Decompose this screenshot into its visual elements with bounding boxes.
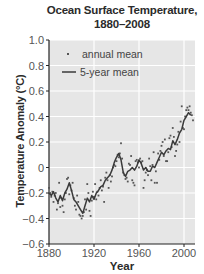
annual-mean-point <box>127 181 129 183</box>
annual-mean-point <box>144 179 146 181</box>
x-tick-label: 1920 <box>82 247 106 259</box>
y-tick-label: 0.4 <box>29 111 44 123</box>
annual-mean-point <box>189 105 191 107</box>
annual-mean-point <box>176 144 178 146</box>
annual-mean-point <box>180 121 182 123</box>
annual-mean-point <box>134 184 136 186</box>
annual-mean-point <box>94 183 96 185</box>
annual-mean-point <box>77 201 79 203</box>
annual-mean-point <box>126 177 128 179</box>
y-tick-label: 1.0 <box>29 34 44 46</box>
annual-mean-point <box>168 137 170 139</box>
annual-mean-point <box>84 198 86 200</box>
annual-mean-point <box>62 205 64 207</box>
annual-mean-point <box>80 215 82 217</box>
annual-mean-point <box>162 141 164 143</box>
annual-mean-point <box>89 210 91 212</box>
annual-mean-point <box>155 170 157 172</box>
annual-mean-point <box>91 200 93 202</box>
annual-mean-point <box>129 164 131 166</box>
y-tick-label: 0 <box>38 162 44 174</box>
annual-mean-point <box>139 158 141 160</box>
annual-mean-point <box>85 209 87 211</box>
annual-mean-point <box>167 151 169 153</box>
annual-mean-point <box>55 192 57 194</box>
legend-dot-icon <box>67 53 69 55</box>
annual-mean-point <box>186 107 188 109</box>
annual-mean-point <box>90 215 92 217</box>
annual-mean-point <box>48 187 50 189</box>
annual-mean-point <box>183 128 185 130</box>
y-tick-label: −0.4 <box>22 213 44 225</box>
annual-mean-point <box>107 179 109 181</box>
annual-mean-point <box>181 105 183 107</box>
annual-mean-point <box>145 172 147 174</box>
y-tick-label: 0.2 <box>29 136 44 148</box>
annual-mean-point <box>132 182 134 184</box>
x-tick-label: 2000 <box>172 247 196 259</box>
annual-mean-point <box>110 181 112 183</box>
annual-mean-point <box>185 109 187 111</box>
annual-mean-point <box>172 127 174 129</box>
annual-mean-point <box>81 218 83 220</box>
annual-mean-point <box>64 198 66 200</box>
annual-mean-point <box>105 172 107 174</box>
annual-mean-point <box>143 187 145 189</box>
annual-mean-point <box>179 141 181 143</box>
annual-mean-point <box>86 183 88 185</box>
annual-mean-point <box>58 182 60 184</box>
annual-mean-point <box>104 177 106 179</box>
annual-mean-point <box>111 176 113 178</box>
annual-mean-point <box>150 179 152 181</box>
annual-mean-point <box>56 209 58 211</box>
y-tick-label: −0.2 <box>22 187 44 199</box>
annual-mean-point <box>92 191 94 193</box>
annual-mean-point <box>161 145 163 147</box>
annual-mean-point <box>100 179 102 181</box>
x-tick-label: 1960 <box>127 247 151 259</box>
annual-mean-point <box>170 135 172 137</box>
annual-mean-point <box>188 109 190 111</box>
annual-mean-point <box>53 201 55 203</box>
annual-mean-point <box>76 195 78 197</box>
annual-mean-point <box>87 192 89 194</box>
annual-mean-point <box>141 160 143 162</box>
annual-mean-point <box>192 119 194 121</box>
annual-mean-point <box>67 177 69 179</box>
annual-mean-point <box>74 205 76 207</box>
annual-mean-point <box>177 131 179 133</box>
chart-plot: −0.6−0.4−0.200.20.40.60.81.0188019201960… <box>0 0 204 274</box>
annual-mean-point <box>147 174 149 176</box>
legend-label-annual: annual mean <box>82 48 143 60</box>
annual-mean-point <box>108 187 110 189</box>
annual-mean-point <box>174 155 176 157</box>
annual-mean-point <box>75 209 77 211</box>
annual-mean-point <box>103 201 105 203</box>
annual-mean-point <box>173 136 175 138</box>
annual-mean-point <box>63 211 65 213</box>
annual-mean-point <box>98 195 100 197</box>
annual-mean-point <box>159 150 161 152</box>
annual-mean-point <box>138 167 140 169</box>
annual-mean-point <box>156 182 158 184</box>
annual-mean-point <box>131 179 133 181</box>
annual-mean-point <box>149 165 151 167</box>
y-tick-label: 0.6 <box>29 85 44 97</box>
annual-mean-point <box>153 151 155 153</box>
annual-mean-point <box>175 150 177 152</box>
annual-mean-point <box>101 190 103 192</box>
annual-mean-point <box>136 159 138 161</box>
annual-mean-point <box>157 153 159 155</box>
annual-mean-point <box>114 165 116 167</box>
annual-mean-point <box>59 206 61 208</box>
annual-mean-point <box>148 158 150 160</box>
annual-mean-point <box>72 182 74 184</box>
y-tick-label: 0.8 <box>29 60 44 72</box>
x-tick-label: 1880 <box>37 247 61 259</box>
annual-mean-point <box>130 155 132 157</box>
annual-mean-point <box>82 215 84 217</box>
annual-mean-point <box>120 142 122 144</box>
annual-mean-point <box>154 182 156 184</box>
annual-mean-point <box>190 112 192 114</box>
annual-mean-point <box>95 198 97 200</box>
